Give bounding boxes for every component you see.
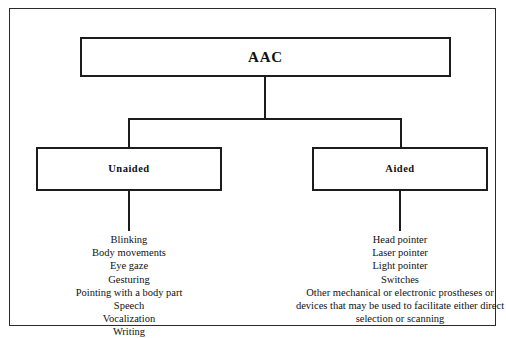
node-aided: Aided [312, 147, 488, 191]
connector-drop-aided [400, 118, 402, 149]
leaf-item: Other mechanical or electronic prosthese… [294, 286, 506, 326]
leaf-item: Blinking [29, 233, 229, 246]
leaf-item: Eye gaze [29, 259, 229, 272]
leaf-item: Vocalization [29, 312, 229, 325]
leaf-list-aided: Head pointer Laser pointer Light pointer… [294, 233, 506, 325]
node-aac: AAC [80, 37, 451, 77]
node-aided-label: Aided [385, 164, 414, 175]
leaf-item: Pointing with a body part [29, 286, 229, 299]
leaf-item: Light pointer [294, 259, 506, 272]
node-unaided: Unaided [36, 147, 222, 191]
connector-stem-aided [399, 190, 401, 231]
leaf-item: Writing [29, 325, 229, 338]
connector-root-stem [264, 76, 266, 120]
diagram-page: AAC Unaided Aided Blinking Body movement… [0, 0, 506, 338]
leaf-list-unaided: Blinking Body movements Eye gaze Gesturi… [29, 233, 229, 338]
leaf-item: Head pointer [294, 233, 506, 246]
leaf-item: Switches [294, 273, 506, 286]
leaf-item: Gesturing [29, 273, 229, 286]
node-unaided-label: Unaided [108, 164, 149, 175]
connector-drop-unaided [128, 118, 130, 149]
node-aac-label: AAC [248, 50, 283, 65]
diagram-frame: AAC Unaided Aided Blinking Body movement… [9, 8, 496, 326]
leaf-item: Laser pointer [294, 246, 506, 259]
leaf-item: Body movements [29, 246, 229, 259]
connector-split-bar [128, 118, 402, 120]
leaf-item: Speech [29, 299, 229, 312]
connector-stem-unaided [128, 190, 130, 231]
